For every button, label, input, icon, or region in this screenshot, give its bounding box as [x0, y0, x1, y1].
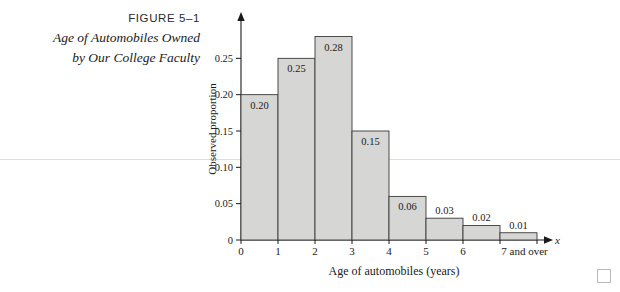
- bar-value-label: 0.01: [509, 220, 527, 231]
- x-tick-label: 7 and over: [501, 245, 548, 257]
- x-axis-title: Age of automobiles (years): [329, 264, 460, 278]
- x-tick-label: 4: [386, 245, 392, 257]
- bar-value-label: 0.25: [287, 63, 305, 74]
- x-variable-symbol: x: [554, 234, 560, 246]
- bar: [278, 58, 315, 240]
- bar-value-label: 0.03: [435, 205, 453, 216]
- bar: [463, 225, 500, 240]
- x-tick-label: 6: [460, 245, 466, 257]
- figure-caption: FIGURE 5–1 Age of Automobiles Owned by O…: [0, 10, 200, 68]
- bar: [500, 233, 537, 240]
- bar-value-label: 0.15: [361, 136, 379, 147]
- figure-page: FIGURE 5–1 Age of Automobiles Owned by O…: [0, 0, 620, 292]
- y-tick-label: 0.05: [215, 198, 233, 209]
- x-tick-label: 3: [349, 245, 355, 257]
- figure-title-line-1: Age of Automobiles Owned: [0, 28, 200, 48]
- x-tick-label: 5: [423, 245, 429, 257]
- bar-value-label: 0.20: [250, 100, 268, 111]
- bar-value-label: 0.28: [324, 42, 342, 53]
- x-axis-arrow: [544, 236, 553, 243]
- y-tick-label: 0.25: [215, 53, 233, 64]
- histogram-chart: 00.050.100.150.200.25 0.2000.2510.2820.1…: [204, 0, 620, 292]
- bar-group: 0.2000.2510.2820.1530.0640.0350.0260.017…: [238, 37, 548, 257]
- x-tick-label: 2: [312, 245, 318, 257]
- bar: [315, 37, 352, 240]
- bar: [352, 131, 389, 240]
- page-corner-mark: [597, 269, 611, 283]
- bar: [241, 95, 278, 240]
- y-axis-title: Observed proportion: [206, 83, 218, 175]
- bar: [426, 218, 463, 240]
- chart-svg: 00.050.100.150.200.25 0.2000.2510.2820.1…: [204, 0, 620, 292]
- figure-title-line-2: by Our College Faculty: [0, 48, 200, 68]
- bar-value-label: 0.06: [398, 201, 416, 212]
- figure-number: FIGURE 5–1: [0, 10, 200, 27]
- bar-value-label: 0.02: [472, 212, 490, 223]
- x-tick-label: 0: [238, 245, 244, 257]
- x-tick-label: 1: [275, 245, 281, 257]
- y-tick-group: 00.050.100.150.200.25: [215, 53, 241, 246]
- y-axis-arrow: [237, 12, 244, 21]
- y-tick-label: 0: [228, 235, 233, 246]
